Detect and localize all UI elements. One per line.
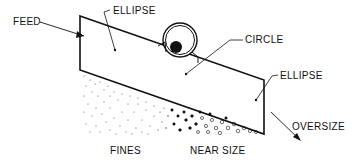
circle-particle <box>158 23 198 63</box>
fines-particles <box>84 76 169 135</box>
label-circle: CIRCLE <box>245 34 284 45</box>
near-size-particles <box>171 109 258 135</box>
feed-arrow <box>40 22 84 38</box>
screen-motion-diagram: FEED ELLIPSE CIRCLE ELLIPSE OVERSIZE <box>0 0 355 162</box>
label-oversize: OVERSIZE <box>292 121 345 132</box>
label-ellipse-right: ELLIPSE <box>280 70 323 81</box>
label-feed: FEED <box>13 16 41 27</box>
leader-ellipse-top <box>104 10 115 50</box>
label-near-size: NEAR SIZE <box>190 145 246 156</box>
eccentric-weight <box>170 41 182 53</box>
label-fines: FINES <box>110 145 141 156</box>
label-ellipse-top: ELLIPSE <box>113 5 156 16</box>
